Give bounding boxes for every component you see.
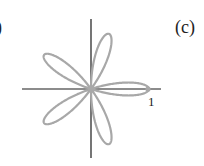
plot-canvas (0, 0, 204, 166)
polar-rose-figure: ) (c) 1 (0, 0, 204, 166)
previous-panel-label: ) (0, 17, 2, 38)
radius-tick-label: 1 (148, 94, 155, 110)
endpoint-marker (145, 86, 150, 91)
panel-label: (c) (175, 17, 195, 38)
